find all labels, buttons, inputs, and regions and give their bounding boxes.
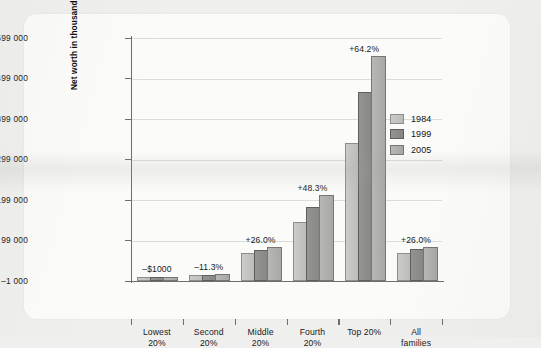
x-axis-tick-label: All families — [390, 327, 442, 348]
bar-group — [137, 38, 176, 281]
legend-swatch-1999-icon — [390, 129, 404, 139]
x-axis-tick — [338, 319, 339, 325]
y-axis-title: Net worth in thousands (in 2005 dollars) — [69, 0, 79, 90]
x-axis-tick — [131, 319, 132, 325]
legend-item: 2005 — [390, 143, 431, 156]
y-axis-tick-label: 499 000 — [0, 73, 28, 83]
y-axis-tick-label: –1 000 — [0, 276, 28, 286]
y-axis-tick-label: 99 000 — [0, 235, 28, 245]
group-annotation: –11.3% — [169, 262, 249, 272]
legend-swatch-1984-icon — [390, 114, 404, 124]
gridline — [131, 200, 442, 201]
bar-2005 — [319, 197, 332, 281]
x-axis-tick — [183, 319, 184, 325]
bar-2005 — [423, 249, 436, 281]
group-annotation: +64.2% — [324, 44, 404, 54]
y-axis-tick-label: 399 000 — [0, 114, 28, 124]
bar-1984 — [345, 145, 358, 281]
x-axis-tick — [287, 319, 288, 325]
x-axis-tick-label: Middle 20% — [235, 327, 287, 348]
legend-label-2005: 2005 — [411, 145, 431, 155]
group-annotation: +26.0% — [376, 235, 456, 245]
legend-label-1999: 1999 — [411, 129, 431, 139]
group-annotation: +48.3% — [272, 183, 352, 193]
gridline — [131, 38, 442, 39]
bar-2005 — [267, 249, 280, 281]
y-axis-line — [131, 36, 132, 283]
gridline — [131, 79, 442, 80]
x-axis-tick-label: Fourth 20% — [287, 327, 339, 348]
x-axis-tick — [442, 319, 443, 325]
y-axis-tick-label: 299 000 — [0, 154, 28, 164]
legend-label-1984: 1984 — [411, 114, 431, 124]
bar-1999 — [358, 94, 371, 281]
bar-1984 — [293, 224, 306, 281]
y-axis-tick-label: 199 000 — [0, 195, 28, 205]
bar-1984 — [397, 255, 410, 281]
x-axis-line — [131, 281, 444, 282]
legend-item: 1984 — [390, 112, 431, 125]
x-axis-tick — [390, 319, 391, 325]
bar-1999 — [254, 252, 267, 281]
bar-1999 — [410, 251, 423, 281]
group-annotation: +26.0% — [221, 235, 301, 245]
x-axis-tick-label: Top 20% — [338, 327, 390, 338]
x-axis-tick-label: Second 20% — [183, 327, 235, 348]
legend-item: 1999 — [390, 128, 431, 141]
x-axis-tick — [235, 319, 236, 325]
plot-area: Net worth in thousands (in 2005 dollars)… — [131, 38, 442, 281]
y-axis-tick-label: 599 000 — [0, 33, 28, 43]
legend: 1984 1999 2005 — [390, 112, 431, 159]
bar-2005 — [371, 58, 384, 281]
x-axis-tick-label: Lowest 20% — [131, 327, 183, 348]
gridline — [131, 160, 442, 161]
bar-1999 — [306, 209, 319, 281]
legend-swatch-2005-icon — [390, 145, 404, 155]
